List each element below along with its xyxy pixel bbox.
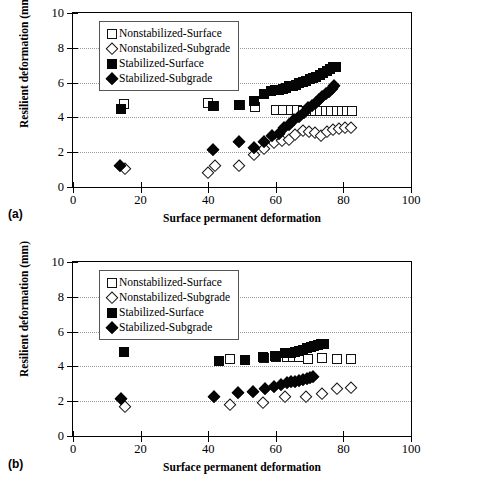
x-axis-label: 60 (270, 442, 283, 457)
y-axis-title-a: Resilient deformation (mm) (18, 0, 30, 145)
y-axis-label: 2 (58, 145, 64, 160)
y-axis-label: 10 (52, 6, 65, 21)
legend-marker (105, 72, 118, 85)
legend-label: Nonstabilized-Subgrade (119, 290, 230, 305)
y-axis-label: 4 (58, 110, 64, 125)
x-axis-label: 0 (70, 193, 76, 208)
x-axis-title-a: Surface permanent deformation (72, 212, 412, 224)
filled-diamond-icon (231, 387, 244, 400)
plot-area-b: Nonstabilized-SurfaceNonstabilized-Subgr… (72, 261, 412, 437)
panel-letter-a: (a) (8, 207, 23, 221)
open-square-icon (107, 278, 117, 288)
x-axis-label: 100 (402, 442, 421, 457)
legend-label: Nonstabilized-Surface (119, 26, 222, 41)
panel-letter-b: (b) (8, 457, 23, 471)
y-axis-label: 10 (52, 255, 65, 270)
y-axis-label: 6 (58, 75, 64, 90)
legend-label: Stabilized-Subgrade (119, 320, 212, 335)
legend-marker (105, 321, 118, 334)
legend-item: Stabilized-Surface (105, 56, 230, 71)
open-square-icon (107, 29, 117, 39)
open-diamond-icon (105, 42, 118, 55)
chart-panel-b: (b) Resilient deformation (mm) Nonstabil… (0, 249, 482, 499)
chart-panel-a: (a) Resilient deformation (mm) Nonstabil… (0, 0, 482, 249)
y-axis-label: 8 (58, 289, 64, 304)
legend-b: Nonstabilized-SurfaceNonstabilized-Subgr… (99, 270, 239, 340)
legend-item: Stabilized-Subgrade (105, 320, 230, 335)
legend-item: Stabilized-Subgrade (105, 71, 230, 86)
filled-square-icon (107, 59, 117, 69)
legend-label: Stabilized-Surface (119, 305, 204, 320)
filled-diamond-icon (207, 391, 220, 404)
x-axis-label: 80 (337, 193, 350, 208)
y-axis-label: 0 (58, 429, 64, 444)
filled-diamond-icon (105, 321, 118, 334)
x-axis-label: 80 (337, 442, 350, 457)
legend-item: Nonstabilized-Surface (105, 26, 230, 41)
x-axis-label: 40 (202, 193, 215, 208)
x-axis-label: 20 (134, 193, 147, 208)
open-diamond-icon (105, 291, 118, 304)
filled-square-icon (107, 308, 117, 318)
legend-item: Nonstabilized-Surface (105, 275, 230, 290)
x-axis-label: 100 (402, 193, 421, 208)
y-axis-label: 6 (58, 324, 64, 339)
filled-diamond-icon (105, 72, 118, 85)
filled-diamond-icon (247, 385, 260, 398)
x-axis-label: 40 (202, 442, 215, 457)
legend-marker (105, 306, 118, 319)
x-axis-label: 20 (134, 442, 147, 457)
filled-diamond-icon (207, 143, 220, 156)
x-axis-tick-inner (411, 431, 412, 436)
legend-item: Stabilized-Surface (105, 305, 230, 320)
legend-item: Nonstabilized-Subgrade (105, 290, 230, 305)
legend-label: Nonstabilized-Surface (119, 275, 222, 290)
x-axis-label: 0 (70, 442, 76, 457)
legend-a: Nonstabilized-SurfaceNonstabilized-Subgr… (99, 21, 239, 91)
figure-container: (a) Resilient deformation (mm) Nonstabil… (0, 0, 482, 499)
legend-marker (105, 27, 118, 40)
legend-marker (105, 276, 118, 289)
filled-diamond-icon (114, 159, 127, 172)
y-axis-label: 4 (58, 359, 64, 374)
plot-area-a: Nonstabilized-SurfaceNonstabilized-Subgr… (72, 12, 412, 188)
legend-label: Stabilized-Subgrade (119, 71, 212, 86)
legend-item: Nonstabilized-Subgrade (105, 41, 230, 56)
y-axis-title-b: Resilient deformation (mm) (18, 224, 30, 394)
x-axis-title-b: Surface permanent deformation (72, 461, 412, 473)
legend-marker (105, 42, 118, 55)
legend-label: Nonstabilized-Subgrade (119, 41, 230, 56)
x-axis-tick-inner (411, 182, 412, 187)
y-axis-label: 0 (58, 180, 64, 195)
legend-label: Stabilized-Surface (119, 56, 204, 71)
y-axis-label: 2 (58, 394, 64, 409)
x-axis-label: 60 (270, 193, 283, 208)
filled-diamond-icon (114, 393, 127, 406)
y-axis-label: 8 (58, 40, 64, 55)
filled-diamond-icon (232, 135, 245, 148)
legend-marker (105, 57, 118, 70)
legend-marker (105, 291, 118, 304)
